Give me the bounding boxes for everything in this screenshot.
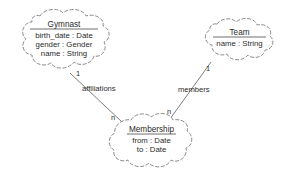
node-title-membership: Membership [127,125,176,135]
node-attribute-gymnast-2: name : String [26,49,102,59]
diagram-canvas: Gymnast birth_date : Date gender : Gende… [0,0,283,177]
node-title-team: Team [213,28,266,38]
node-title-gymnast: Gymnast [30,20,98,30]
edge-label-affiliations: affiliations [82,84,116,93]
cardinality-members-source: 1 [206,64,210,73]
node-attribute-membership-1: to : Date [125,145,178,155]
edge-label-members: members [178,85,210,94]
cardinality-members-target: n [167,107,171,116]
node-attribute-team-0: name : String [211,39,268,49]
cardinality-affiliations-target: n [111,113,115,122]
cardinality-affiliations-source: 1 [76,69,80,78]
